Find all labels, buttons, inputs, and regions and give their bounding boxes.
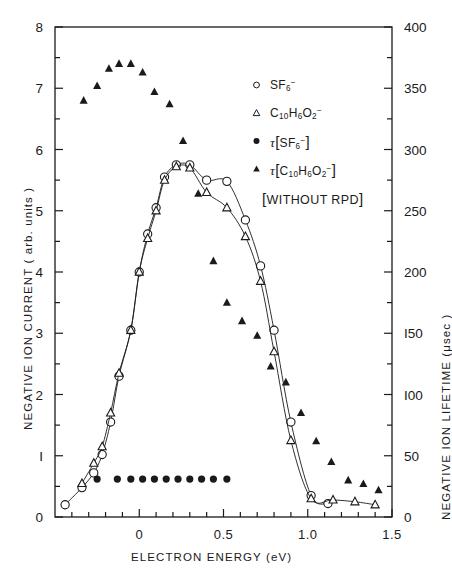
datapoint-open-circle (223, 177, 231, 185)
datapoint-filled-circle (223, 475, 230, 482)
datapoint-filled-circle (151, 475, 158, 482)
chart-legend: SF6−C10H6O2−τ[SF6−]τ[C10H6O2−][WITHOUT R… (248, 72, 364, 207)
y-right-tick-label: I00 (404, 388, 423, 403)
datapoint-open-circle (203, 176, 211, 184)
datapoint-filled-triangle (327, 457, 335, 465)
datapoint-filled-triangle (374, 486, 382, 494)
datapoint-filled-triangle (238, 317, 246, 325)
datapoint-open-circle (256, 262, 264, 270)
datapoint-open-triangle (107, 408, 115, 416)
y-left-tick-label: I (39, 449, 43, 464)
y-left-tick-label: 4 (35, 265, 43, 280)
y-left-tick-label: 0 (35, 510, 43, 525)
datapoint-filled-triangle (359, 480, 367, 488)
datapoint-open-triangle (287, 436, 295, 444)
datapoint-open-circle (98, 450, 106, 458)
x-tick-label: 1.5 (382, 527, 402, 542)
legend-label: τ[C10H6O2−] (270, 161, 336, 179)
datapoint-open-circle (287, 418, 295, 426)
datapoint-open-circle (61, 501, 69, 509)
datapoint-open-triangle (78, 479, 86, 487)
datapoint-filled-circle (186, 475, 193, 482)
datapoint-filled-triangle (297, 408, 305, 416)
legend-item-tau-sf6: τ[SF6−] (248, 128, 364, 156)
y-right-tick-label: 250 (404, 204, 427, 219)
legend-marker-filled-circle-icon (248, 133, 264, 151)
x-axis-title: ELECTRON ENERGY (eV) (131, 551, 292, 563)
datapoint-filled-circle (114, 475, 121, 482)
legend-note-without-rpd: [WITHOUT RPD] (262, 190, 364, 207)
datapoint-filled-triangle (179, 137, 187, 145)
datapoint-open-triangle (90, 459, 98, 467)
y-right-axis-title: NEGATIVE ION LIFETIME (μsec ) (440, 314, 452, 520)
legend-item-c10h6o2-current: C10H6O2− (248, 100, 364, 128)
datapoint-filled-triangle (115, 59, 123, 67)
datapoint-filled-circle (163, 475, 170, 482)
datapoint-filled-circle (139, 475, 146, 482)
datapoint-filled-circle (198, 475, 205, 482)
y-left-axis-title: NEGATIVE ION CURRENT ( arb. units ) (22, 187, 34, 430)
datapoint-open-circle (241, 216, 249, 224)
legend-marker-filled-triangle-icon (248, 161, 264, 179)
legend-label: τ[SF6−] (270, 133, 310, 151)
datapoint-filled-triangle (194, 189, 202, 197)
datapoint-filled-triangle (80, 96, 88, 104)
legend-marker-open-triangle-icon (248, 105, 264, 123)
x-tick-label: 0 (135, 527, 143, 542)
datapoint-open-triangle (270, 347, 278, 355)
datapoint-filled-triangle (223, 298, 231, 306)
datapoint-filled-circle (174, 475, 181, 482)
datapoint-open-triangle (241, 232, 249, 240)
datapoint-filled-circle (210, 475, 217, 482)
y-right-tick-label: 400 (404, 20, 427, 35)
y-left-tick-label: 5 (35, 204, 43, 219)
datapoint-filled-circle (127, 475, 134, 482)
datapoint-filled-circle (94, 475, 101, 482)
y-left-tick-label: 7 (35, 81, 43, 96)
x-tick-label: 1.0 (298, 527, 318, 542)
datapoint-filled-triangle (139, 68, 147, 76)
y-right-tick-label: 50 (404, 449, 419, 464)
legend-item-tau-c10h6o2: τ[C10H6O2−] (248, 156, 364, 184)
datapoint-filled-triangle (209, 257, 217, 265)
legend-label: C10H6O2− (270, 106, 322, 121)
datapoint-filled-triangle (150, 88, 158, 96)
y-left-tick-label: 6 (35, 143, 43, 158)
x-tick-label: 0.5 (214, 527, 234, 542)
legend-label: SF6− (270, 78, 296, 93)
y-right-tick-label: 350 (404, 81, 427, 96)
y-right-tick-label: 0 (404, 510, 412, 525)
datapoint-filled-triangle (312, 437, 320, 445)
y-right-tick-label: 300 (404, 143, 427, 158)
datapoint-filled-triangle (93, 81, 101, 89)
y-right-tick-label: I50 (404, 326, 423, 341)
series-line-C10H6O2- (82, 165, 375, 505)
y-left-tick-label: 3 (35, 326, 43, 341)
legend-marker-open-circle-icon (248, 77, 264, 95)
datapoint-filled-triangle (105, 64, 113, 72)
legend-item-sf6-current: SF6− (248, 72, 364, 100)
datapoint-filled-triangle (267, 362, 275, 370)
datapoint-open-circle (270, 326, 278, 334)
datapoint-filled-triangle (253, 331, 261, 339)
datapoint-filled-triangle (344, 476, 352, 484)
datapoint-open-triangle (329, 495, 337, 503)
datapoint-filled-triangle (127, 59, 135, 67)
y-left-tick-label: 2 (35, 388, 43, 403)
y-left-tick-label: 8 (35, 20, 43, 35)
y-right-tick-label: 200 (404, 265, 427, 280)
datapoint-filled-triangle (166, 100, 174, 108)
